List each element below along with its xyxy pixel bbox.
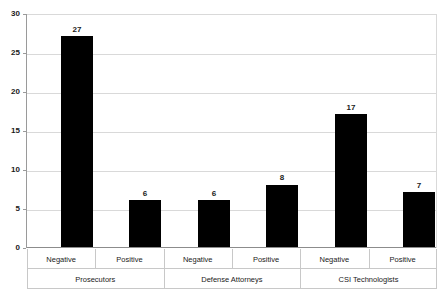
bar-value-label: 8	[266, 174, 298, 182]
bar-value-label: 6	[198, 190, 230, 198]
x-axis-subcategory-label: Positive	[369, 249, 437, 269]
x-axis-group-label: Prosecutors	[27, 269, 164, 289]
axis-edge	[436, 249, 437, 269]
bar-chart: 30 25 20 15 10 5 0 27 6 6	[0, 0, 446, 289]
bar-value-label: 7	[403, 182, 435, 190]
y-tick-mark	[23, 53, 26, 54]
y-tick-label: 20	[11, 88, 20, 96]
y-tick-label: 0	[16, 244, 20, 252]
x-axis-group-row: Prosecutors Defense Attorneys CSI Techno…	[27, 269, 437, 289]
bar-value-label: 17	[335, 104, 367, 112]
x-axis-subcategory-label: Positive	[95, 249, 163, 269]
bar	[61, 36, 93, 247]
x-axis-subcategory-label: Positive	[232, 249, 300, 269]
y-tick-mark	[23, 170, 26, 171]
bar	[198, 200, 230, 247]
y-tick-mark	[23, 131, 26, 132]
x-axis-subcategory-label: Negative	[27, 249, 95, 269]
y-tick-label: 30	[11, 10, 20, 18]
x-axis-subcategory-label: Negative	[300, 249, 368, 269]
bar	[335, 114, 367, 247]
x-axis-group-label: Defense Attorneys	[164, 269, 301, 289]
bars-layer: 27 6 6 8 17 7	[27, 15, 436, 248]
x-axis-group-label: CSI Technologists	[300, 269, 437, 289]
x-axis-subcategory-row: Negative Positive Negative Positive Nega…	[27, 249, 437, 269]
y-tick-mark	[23, 14, 26, 15]
x-axis-subcategory-label: Negative	[164, 249, 232, 269]
axis-edge	[436, 269, 437, 289]
bar-value-label: 27	[61, 26, 93, 34]
bar	[266, 185, 298, 247]
y-axis: 30 25 20 15 10 5 0	[0, 0, 26, 289]
bar	[129, 200, 161, 247]
plot-area: 27 6 6 8 17 7	[27, 14, 437, 248]
y-tick-mark	[23, 209, 26, 210]
bar-value-label: 6	[129, 190, 161, 198]
y-tick-mark	[23, 248, 26, 249]
y-tick-label: 15	[11, 127, 20, 135]
y-tick-label: 5	[16, 205, 20, 213]
y-tick-mark	[23, 92, 26, 93]
y-tick-label: 10	[11, 166, 20, 174]
y-tick-label: 25	[11, 49, 20, 57]
bar	[403, 192, 435, 247]
